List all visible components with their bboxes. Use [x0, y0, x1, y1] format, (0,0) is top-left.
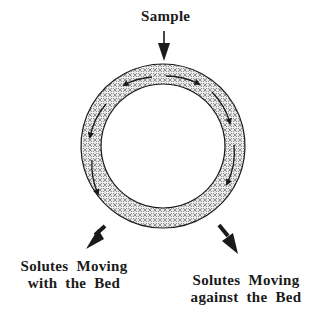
annular-bed-ring	[81, 64, 245, 228]
against-bed-label-line1: Solutes Moving	[182, 272, 310, 289]
sample-label-text: Sample	[141, 8, 190, 25]
sample-label: Sample	[141, 8, 190, 25]
against-bed-label-line2: against the Bed	[182, 289, 310, 306]
with-bed-label-line2: with the Bed	[12, 275, 136, 292]
against-bed-label: Solutes Moving against the Bed	[182, 272, 310, 306]
sample-inlet-arrow	[158, 31, 170, 61]
with-bed-label-line1: Solutes Moving	[12, 258, 136, 275]
outlet-arrow-against-bed	[219, 225, 238, 254]
with-bed-label: Solutes Moving with the Bed	[12, 258, 136, 292]
outlet-arrow-with-bed	[86, 226, 105, 249]
